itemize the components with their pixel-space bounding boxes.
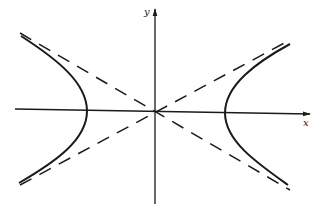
x-axis-label: x [303, 117, 309, 128]
diagram-svg [0, 0, 326, 213]
hyperbola-right-branch [225, 44, 290, 185]
y-axis-label: y [144, 6, 150, 17]
x-axis [15, 109, 310, 114]
hyperbola-diagram: x y [0, 0, 326, 213]
